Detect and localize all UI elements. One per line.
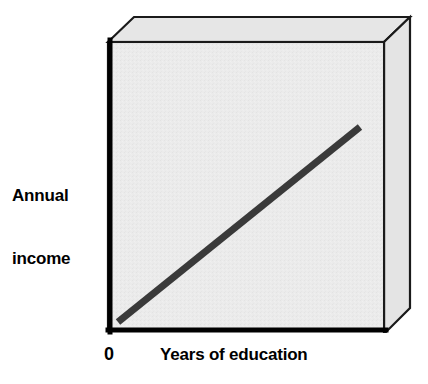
origin-tick-label: 0 bbox=[104, 343, 114, 365]
box-top-face bbox=[108, 17, 410, 42]
plot-area-texture bbox=[109, 43, 383, 329]
chart-figure: Annual income 0 Years of education bbox=[0, 0, 428, 384]
y-axis-label-line-2: income bbox=[12, 248, 104, 269]
y-axis-label-line-1: Annual bbox=[12, 185, 104, 206]
box-right-face bbox=[384, 17, 410, 332]
x-axis-label: Years of education bbox=[160, 344, 308, 365]
y-axis-label: Annual income bbox=[12, 143, 104, 311]
